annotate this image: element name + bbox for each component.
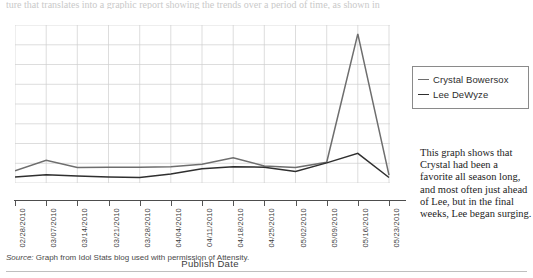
chart-plot-area: [15, 25, 390, 183]
x-axis-tick-label: 04/25/2010: [268, 208, 276, 264]
source-text: Graph from Idol Stats blog used with per…: [36, 253, 249, 262]
line-chart: 02/28/201003/07/201003/14/201003/21/2010…: [0, 18, 404, 190]
x-axis-tick: [264, 201, 265, 206]
x-axis-tick: [140, 201, 141, 206]
legend-item-lee-dewyze: Lee DeWyze: [418, 87, 524, 102]
legend-item-crystal-bowersox: Crystal Bowersox: [418, 72, 524, 87]
x-axis-tick-label: 05/09/2010: [331, 208, 339, 264]
x-axis-tick: [389, 201, 390, 206]
x-axis-tick-label: 05/16/2010: [362, 208, 370, 264]
x-axis-tick: [233, 201, 234, 206]
x-axis-tick: [15, 201, 16, 206]
legend-item-label: Lee DeWyze: [433, 89, 488, 100]
x-axis-tick: [46, 201, 47, 206]
legend-item-label: Crystal Bowersox: [433, 74, 509, 85]
x-axis-tick: [296, 201, 297, 206]
footer-divider: [6, 271, 527, 272]
chart-legend: Crystal Bowersox Lee DeWyze: [412, 66, 529, 109]
source-note: Source: Graph from Idol Stats blog used …: [6, 253, 249, 262]
x-axis-tick-label: 05/02/2010: [300, 208, 308, 264]
x-axis-tick: [109, 201, 110, 206]
source-label: Source:: [6, 253, 34, 262]
chart-caption: This graph shows that Crystal had been a…: [420, 147, 532, 220]
x-axis-tick: [327, 201, 328, 206]
legend-line-swatch-icon: [418, 94, 429, 95]
page-top-text-fragment: ture that translates into a graphic repo…: [6, 0, 526, 9]
horizontal-gridlines: [15, 25, 390, 183]
x-axis-line: [14, 200, 406, 201]
x-axis-tick: [171, 201, 172, 206]
x-axis-tick: [358, 201, 359, 206]
x-axis-tick-label: 05/23/2010: [393, 208, 401, 264]
legend-line-swatch-icon: [418, 79, 429, 80]
chart-svg: [15, 25, 390, 183]
x-axis-tick: [77, 201, 78, 206]
x-axis-tick: [202, 201, 203, 206]
